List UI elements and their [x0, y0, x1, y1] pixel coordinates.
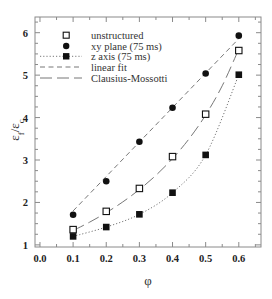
data-point [235, 32, 242, 39]
data-point [169, 105, 176, 112]
legend-label: Clausius-Mossotti [91, 73, 168, 84]
x-axis-label: φ [144, 273, 152, 288]
x-tick-label: 0.0 [33, 253, 46, 264]
x-tick-label: 0.3 [133, 253, 146, 264]
x-tick-label: 0.5 [199, 253, 212, 264]
data-point [70, 211, 77, 218]
z-axis-75-ms-markers [70, 71, 242, 239]
legend: unstructured xy plane (75 ms) z axis (75… [40, 30, 168, 84]
chart: 0.00.10.20.30.40.50.6123456 unstructured… [0, 0, 272, 299]
data-point [70, 233, 77, 240]
data-point [202, 152, 209, 159]
y-tick-label: 5 [23, 70, 28, 81]
data-point [136, 211, 143, 218]
y-tick-label: 2 [23, 197, 28, 208]
data-point [103, 224, 110, 231]
y-tick-label: 6 [23, 28, 28, 39]
legend-entry-clausius-mossotti: Clausius-Mossotti [40, 73, 168, 84]
z-axis-75-ms-line [73, 75, 239, 237]
data-point [103, 178, 110, 185]
data-point [202, 111, 208, 117]
data-point [136, 138, 143, 145]
y-axis-label: εf/εc [7, 119, 26, 141]
filled-circle-marker-icon [63, 43, 69, 49]
data-point [70, 226, 76, 232]
legend-entry-linear-fit: linear fit [40, 62, 127, 73]
x-tick-label: 0.4 [166, 253, 180, 264]
y-tick-label: 3 [23, 155, 28, 166]
x-tick-label: 0.2 [100, 253, 113, 264]
legend-label: unstructured [91, 30, 144, 41]
data-point [136, 185, 142, 191]
data-point [202, 70, 209, 77]
x-tick-label: 0.1 [67, 253, 80, 264]
legend-entry-unstructured: unstructured [63, 30, 144, 41]
x-tick-label: 0.6 [232, 253, 245, 264]
y-tick-label: 1 [23, 240, 28, 251]
legend-label: linear fit [91, 62, 127, 73]
open-square-marker-icon [63, 32, 69, 38]
data-point [169, 153, 175, 159]
data-point [236, 47, 242, 53]
data-point [169, 189, 176, 196]
filled-square-marker-icon [63, 53, 69, 59]
data-point [235, 71, 242, 78]
data-point [103, 208, 109, 214]
